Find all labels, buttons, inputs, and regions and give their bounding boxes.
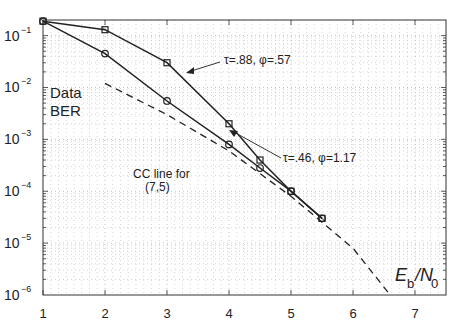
- y-tick-label: 10: [4, 235, 20, 251]
- annotation-tau-88: τ=.88, φ=.57: [224, 53, 291, 67]
- annotation-tau-46: τ=.46, φ=1.17: [283, 151, 357, 165]
- y-tick-exponent: −6: [21, 284, 31, 294]
- xlabel-0: 0: [431, 276, 438, 291]
- x-tick-label: 1: [39, 306, 46, 321]
- ylabel-data: Data: [50, 84, 82, 101]
- xlabel-b: b: [407, 276, 414, 291]
- ylabel-ber: BER: [50, 102, 81, 119]
- x-tick-label: 3: [163, 306, 170, 321]
- x-tick-label: 4: [225, 306, 232, 321]
- y-tick-label: 10: [4, 131, 20, 147]
- y-tick-exponent: −1: [21, 25, 31, 35]
- ber-chart: 123456710−110−210−310−410−510−6 Data BER…: [0, 0, 460, 325]
- y-tick-exponent: −4: [21, 180, 31, 190]
- y-tick-label: 10: [4, 28, 20, 44]
- cc-label-1: CC line for: [133, 167, 190, 181]
- y-tick-exponent: −3: [21, 128, 31, 138]
- x-tick-label: 6: [349, 306, 356, 321]
- cc-label-2: (7,5): [145, 180, 170, 194]
- x-tick-label: 5: [287, 306, 294, 321]
- x-tick-label: 2: [101, 306, 108, 321]
- x-tick-label: 7: [411, 306, 418, 321]
- y-tick-exponent: −5: [21, 232, 31, 242]
- xlabel-ebn0: E b /N 0: [395, 265, 438, 291]
- y-tick-label: 10: [4, 183, 20, 199]
- y-tick-label: 10: [4, 287, 20, 303]
- chart-svg: 123456710−110−210−310−410−510−6 Data BER…: [0, 0, 460, 325]
- y-tick-exponent: −2: [21, 76, 31, 86]
- y-tick-label: 10: [4, 79, 20, 95]
